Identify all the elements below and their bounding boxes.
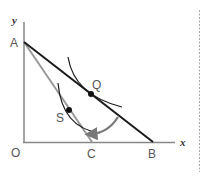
shift-arrow (91, 117, 118, 134)
point-S-marker (66, 107, 72, 113)
label-S: S (56, 111, 64, 125)
y-axis-label: y (10, 14, 17, 26)
label-B: B (148, 147, 156, 161)
label-C: C (87, 147, 96, 161)
x-axis-label: x (179, 136, 186, 148)
diagram-canvas: y x A O C B Q S (0, 0, 203, 177)
label-origin: O (11, 146, 20, 160)
label-Q: Q (92, 78, 101, 92)
label-A: A (10, 36, 18, 50)
